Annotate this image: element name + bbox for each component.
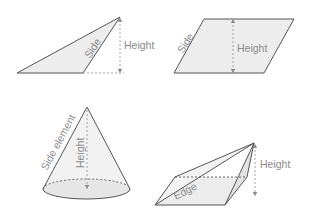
parallelogram-shape <box>174 19 294 73</box>
triangle-shape <box>17 17 120 73</box>
parallelogram-figure: Side Height <box>174 19 294 73</box>
parallelogram-height-label: Height <box>237 42 267 54</box>
cone-figure: Side element Height <box>38 107 130 199</box>
pyramid-figure: Edge Height <box>155 143 290 205</box>
cone-height-label: Height <box>74 138 86 168</box>
triangle-height-label: Height <box>124 39 154 51</box>
pyramid-height-label: Height <box>260 158 290 170</box>
geometry-diagram: Side Height Side Height Side element Hei… <box>0 0 309 215</box>
triangle-figure: Side Height <box>17 17 154 73</box>
